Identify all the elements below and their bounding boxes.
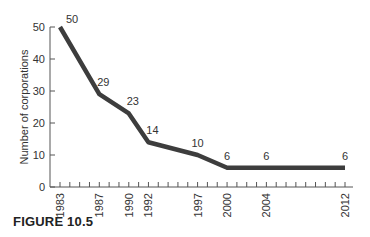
data-label: 29 <box>97 76 109 88</box>
data-label: 14 <box>146 124 158 136</box>
line-chart: 0102030405019831987199019921997200020042… <box>0 0 370 237</box>
x-tick-label: 1997 <box>192 193 204 217</box>
x-tick-label: 1987 <box>93 193 105 217</box>
x-tick-label: 1990 <box>123 193 135 217</box>
x-tick-label: 1992 <box>142 193 154 217</box>
data-label: 10 <box>191 137 203 149</box>
x-tick-label: 2004 <box>260 193 272 217</box>
data-label: 50 <box>66 13 78 25</box>
data-label: 6 <box>263 150 269 162</box>
data-label: 23 <box>127 95 139 107</box>
x-tick-label: 2012 <box>339 193 351 217</box>
data-labels: 5029231410666 <box>66 13 348 162</box>
axes: 0102030405019831987199019921997200020042… <box>33 21 353 217</box>
data-label: 6 <box>342 150 348 162</box>
y-tick-label: 10 <box>33 149 45 161</box>
figure-caption: FIGURE 10.5 <box>13 214 93 229</box>
y-tick-label: 0 <box>39 181 45 193</box>
y-tick-label: 20 <box>33 117 45 129</box>
y-tick-label: 30 <box>33 85 45 97</box>
data-label: 6 <box>224 150 230 162</box>
y-tick-label: 50 <box>33 21 45 33</box>
y-tick-label: 40 <box>33 53 45 65</box>
y-axis-label: Number of corporations <box>18 49 30 164</box>
x-tick-label: 2000 <box>221 193 233 217</box>
